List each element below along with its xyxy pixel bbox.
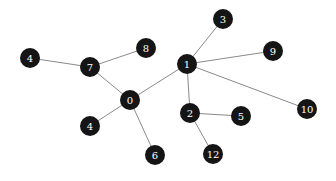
- edges-layer: [30, 19, 307, 155]
- node-n0: 0: [120, 90, 140, 110]
- edge-1-9: [187, 51, 273, 64]
- node-label: 0: [127, 95, 133, 106]
- node-n1: 1: [177, 54, 197, 74]
- node-n4a: 4: [20, 48, 40, 68]
- node-n6: 6: [145, 145, 165, 165]
- node-n10: 10: [297, 99, 317, 119]
- node-label: 8: [143, 43, 149, 54]
- node-label: 1: [184, 59, 190, 70]
- node-n4b: 4: [80, 116, 100, 136]
- node-label: 12: [207, 149, 220, 160]
- node-label: 7: [87, 62, 93, 73]
- node-n9: 9: [263, 41, 283, 61]
- node-n2: 2: [180, 103, 200, 123]
- node-label: 6: [152, 150, 158, 161]
- edge-0-1: [130, 64, 187, 100]
- node-label: 10: [301, 104, 314, 115]
- node-label: 4: [27, 53, 33, 64]
- node-n8: 8: [136, 38, 156, 58]
- node-label: 9: [270, 46, 276, 57]
- node-label: 2: [187, 108, 193, 119]
- node-n7: 7: [80, 57, 100, 77]
- node-label: 4: [87, 121, 93, 132]
- graph-diagram: 478391046251210: [0, 0, 336, 181]
- node-label: 5: [238, 111, 244, 122]
- node-n3: 3: [213, 9, 233, 29]
- node-n5: 5: [231, 106, 251, 126]
- node-n12: 12: [203, 144, 223, 164]
- node-label: 3: [220, 14, 226, 25]
- nodes-layer: 478391046251210: [20, 9, 317, 165]
- edge-1-10: [187, 64, 307, 109]
